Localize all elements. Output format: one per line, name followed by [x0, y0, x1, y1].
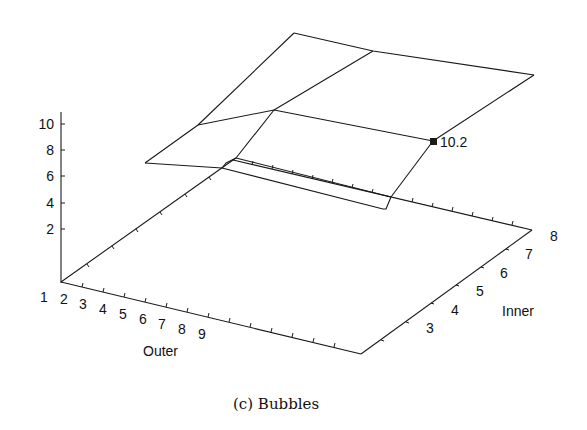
outer-tick-1: 1 — [40, 289, 48, 305]
outer-tick-5: 5 — [119, 306, 127, 322]
figure-caption: (c) Bubbles — [233, 395, 319, 413]
inner-axis-labels: 3 4 5 6 7 8 Inner — [426, 228, 558, 336]
z-tick-8: 8 — [46, 142, 54, 158]
inner-tick-8: 8 — [550, 228, 558, 244]
peak-annotation: 10.2 — [440, 134, 467, 150]
inner-axis-title: Inner — [502, 303, 534, 319]
outer-tick-7: 7 — [158, 316, 166, 332]
outer-tick-2: 2 — [60, 291, 68, 307]
outer-tick-9: 9 — [198, 326, 206, 342]
inner-tick-5: 5 — [476, 283, 484, 299]
outer-tick-6: 6 — [139, 311, 147, 327]
outer-tick-4: 4 — [99, 301, 107, 317]
z-tick-2: 2 — [46, 221, 54, 237]
base-plane — [61, 160, 532, 354]
inner-tick-6: 6 — [500, 265, 508, 281]
inner-tick-3: 3 — [426, 320, 434, 336]
z-tick-4: 4 — [46, 195, 54, 211]
surface-chart: 10 8 6 4 2 — [0, 0, 587, 430]
z-axis: 10 8 6 4 2 — [38, 112, 65, 283]
outer-tick-3: 3 — [79, 296, 87, 312]
inner-tick-4: 4 — [451, 302, 459, 318]
outer-tick-8: 8 — [178, 321, 186, 337]
z-tick-6: 6 — [46, 168, 54, 184]
surface-wireframe — [145, 33, 534, 209]
z-tick-10: 10 — [38, 116, 54, 132]
inner-tick-7: 7 — [525, 246, 533, 262]
outer-axis-title: Outer — [143, 343, 178, 359]
outer-axis-labels: 1 2 3 4 5 6 7 8 9 Outer — [40, 289, 206, 359]
peak-marker-icon — [430, 138, 437, 145]
